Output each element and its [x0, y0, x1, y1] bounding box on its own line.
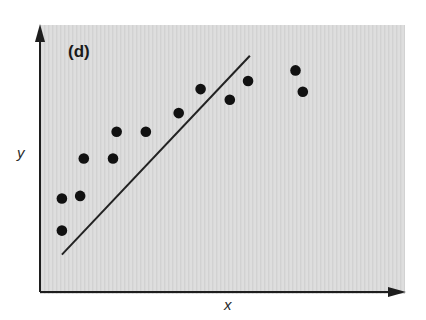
data-point	[75, 191, 86, 202]
data-point	[111, 127, 122, 138]
data-point	[108, 153, 119, 164]
data-point	[173, 108, 184, 119]
plot-background	[40, 25, 405, 294]
scatter-chart: (d) y x	[0, 0, 426, 320]
data-point	[141, 127, 152, 138]
y-axis-label: y	[16, 144, 26, 161]
data-point	[298, 86, 309, 97]
data-point	[57, 225, 68, 236]
panel-label: (d)	[68, 42, 90, 61]
data-point	[290, 65, 301, 76]
data-point	[79, 153, 90, 164]
data-point	[195, 84, 206, 95]
data-point	[225, 94, 236, 105]
data-point	[57, 193, 68, 204]
x-axis-label: x	[223, 296, 232, 313]
data-point	[243, 76, 254, 87]
